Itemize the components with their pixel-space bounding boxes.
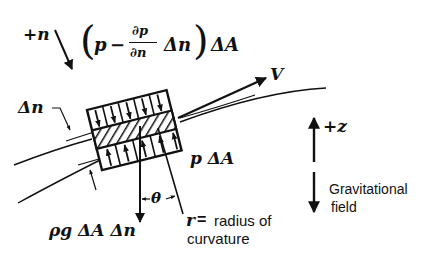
weight-label: ρg ΔA Δn — [49, 222, 136, 239]
gravity-label-line2: field — [331, 200, 357, 214]
delta-a-term: ΔA — [211, 36, 239, 54]
partial-n: ∂n — [130, 46, 146, 59]
radius-text-line1: radius of — [214, 213, 272, 228]
normal-direction-arrow — [55, 30, 72, 69]
bottom-face-force-label: p ΔA — [190, 150, 234, 167]
delta-n-term: Δn — [164, 36, 191, 54]
gravity-label-line1: Gravitational — [329, 182, 408, 196]
radius-text-line2: curvature — [187, 231, 250, 246]
partial-p: ∂p — [132, 24, 148, 37]
pressure-symbol: p — [94, 36, 107, 54]
plus-z-label: +z — [323, 118, 347, 135]
theta-label: θ — [151, 191, 161, 206]
close-paren: ) — [193, 20, 209, 60]
velocity-label: V — [270, 66, 283, 83]
plus-n-label: +n — [23, 26, 50, 43]
minus-sign: − — [110, 36, 125, 54]
fraction-bar — [129, 42, 157, 43]
velocity-arrow — [178, 78, 266, 118]
delta-n-label: Δn — [18, 99, 44, 116]
r-symbol: r — [186, 212, 195, 229]
r-equals: = — [197, 212, 206, 228]
